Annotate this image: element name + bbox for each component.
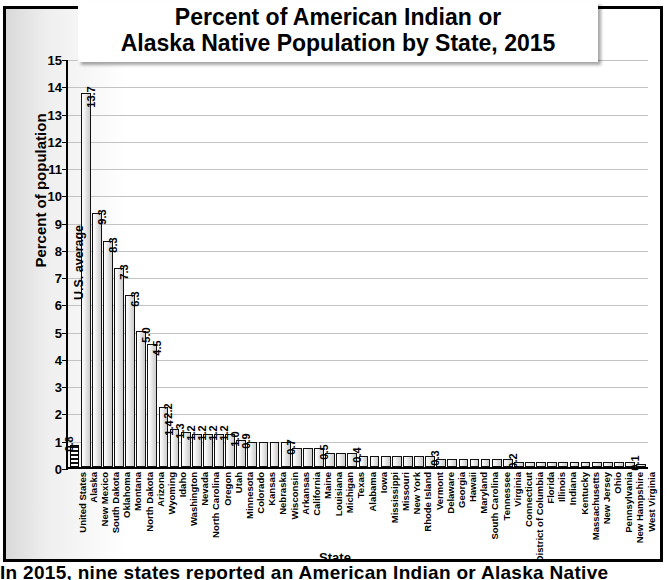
y-axis-tick-label: 4: [55, 352, 62, 367]
x-axis-tick-slot: Idaho: [167, 472, 178, 548]
bar[interactable]: [403, 456, 413, 467]
bar[interactable]: [492, 459, 502, 467]
bar[interactable]: 6.3: [125, 295, 135, 467]
bar[interactable]: [603, 462, 613, 467]
gridline: [68, 469, 648, 470]
y-axis-tick-label: 9: [55, 216, 62, 231]
x-axis-tick-slot: Louisiana: [324, 472, 335, 548]
bar[interactable]: [614, 462, 624, 467]
bar-slot: 0.2: [513, 60, 524, 467]
x-axis-tick-slot: Kentucky: [569, 472, 580, 548]
bar[interactable]: 0.8: [70, 445, 80, 467]
x-axis-tick-slot: Missouri: [391, 472, 402, 548]
bar-slot: 8.3: [102, 60, 113, 467]
chart-title-line-2: Alaska Native Population by State, 2015: [84, 31, 592, 57]
x-axis-tick-slot: Minnesota: [234, 472, 245, 548]
x-axis-tick-slot: Nevada: [190, 472, 201, 548]
bar[interactable]: [447, 459, 457, 467]
x-axis-tick-slot: Tennessee: [491, 472, 502, 548]
chart-title: Percent of American Indian or Alaska Nat…: [78, 2, 598, 62]
bar[interactable]: [459, 459, 469, 467]
x-axis-tick-slot: Vermont: [424, 472, 435, 548]
x-axis-tick-slot: Utah: [223, 472, 234, 548]
bar[interactable]: [592, 462, 602, 467]
bar[interactable]: 5.0: [136, 331, 146, 467]
bar[interactable]: 8.3: [103, 241, 113, 467]
x-axis-tick-slot: South Carolina: [480, 472, 491, 548]
bar[interactable]: [336, 453, 346, 467]
bar[interactable]: [303, 448, 313, 467]
bar[interactable]: [570, 462, 580, 467]
bar[interactable]: [270, 442, 280, 467]
bar-value-label: 0.7: [286, 439, 297, 454]
x-axis-tick-slot: Wyoming: [156, 472, 167, 548]
bar[interactable]: [547, 462, 557, 467]
bar[interactable]: 0.4: [359, 456, 369, 467]
bar[interactable]: 2.2: [159, 407, 169, 467]
bar[interactable]: 7.3: [114, 268, 124, 467]
y-axis-tick-label: 10: [48, 189, 62, 204]
bar[interactable]: 0.9: [247, 442, 257, 467]
bar-slot: [624, 60, 635, 467]
bar[interactable]: [536, 462, 546, 467]
bar-slot: [413, 60, 424, 467]
bar[interactable]: 0.3: [436, 459, 446, 467]
bar-slot: 0.7: [291, 60, 302, 467]
bar[interactable]: [370, 456, 380, 467]
bar-slot: [480, 60, 491, 467]
x-axis-tick-slot: Georgia: [446, 472, 457, 548]
x-axis-tick-slot: Kansas: [257, 472, 268, 548]
y-axis-tick-label: 3: [55, 380, 62, 395]
bar-slot: [391, 60, 402, 467]
y-axis-label: Percent of population: [32, 81, 49, 301]
x-axis-tick-slot: Connecticut: [513, 472, 524, 548]
x-axis-tick-label: West Virginia: [646, 472, 656, 532]
y-axis-tick-label: 11: [48, 162, 62, 177]
bar[interactable]: [525, 462, 535, 467]
y-axis-tick-label: 5: [55, 325, 62, 340]
plot-area: 1514131211109876543210 0.813.79.38.37.36…: [66, 60, 648, 469]
x-axis-tick-slot: West Virginia: [636, 472, 647, 548]
bar-slot: [425, 60, 436, 467]
bar[interactable]: [259, 442, 269, 467]
y-axis-tick-label: 15: [48, 53, 62, 68]
us-average-annotation: U.S. average: [72, 225, 86, 300]
bar[interactable]: 0.1: [636, 464, 646, 467]
y-axis-tick-mark: [62, 469, 68, 470]
bar[interactable]: [392, 456, 402, 467]
bar-slot: 2.2: [158, 60, 169, 467]
x-axis-tick-slot: Rhode Island: [413, 472, 424, 548]
bar-value-label: 0.8: [64, 437, 75, 452]
x-axis-tick-slot: Indiana: [558, 472, 569, 548]
x-axis-tick-slot: Mississippi: [379, 472, 390, 548]
bar[interactable]: 0.2: [514, 462, 524, 467]
x-axis-tick-slot: United States: [67, 472, 78, 548]
x-axis-tick-slot: Florida: [536, 472, 547, 548]
bar-slot: [447, 60, 458, 467]
x-axis-tick-slot: New York: [402, 472, 413, 548]
bar[interactable]: [470, 459, 480, 467]
bar[interactable]: [581, 462, 591, 467]
bar-slot: [591, 60, 602, 467]
bar[interactable]: 0.7: [292, 448, 302, 467]
bar-value-label: 0.5: [319, 445, 330, 460]
bar-slot: 0.4: [358, 60, 369, 467]
x-axis-label: State: [0, 550, 670, 565]
bar[interactable]: 9.3: [92, 213, 102, 467]
x-axis-tick-slot: Texas: [346, 472, 357, 548]
bar[interactable]: [481, 459, 491, 467]
bar-slot: [369, 60, 380, 467]
x-axis-tick-slot: Wisconsin: [279, 472, 290, 548]
bar-slot: [502, 60, 513, 467]
bar[interactable]: [414, 456, 424, 467]
bar[interactable]: 4.5: [147, 344, 157, 467]
bar[interactable]: 0.5: [325, 453, 335, 467]
bar-slot: [536, 60, 547, 467]
bar-slot: 0.3: [436, 60, 447, 467]
bar-slot: [524, 60, 535, 467]
x-axis-tick-slot: Hawaii: [457, 472, 468, 548]
bar[interactable]: [381, 456, 391, 467]
bar[interactable]: [558, 462, 568, 467]
x-axis-tick-slot: New Mexico: [89, 472, 100, 548]
x-axis-tick-slot: Illinois: [547, 472, 558, 548]
